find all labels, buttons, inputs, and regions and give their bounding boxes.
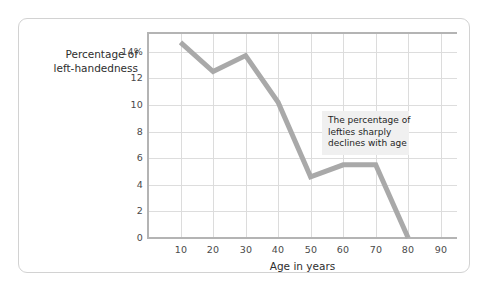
x-tick-label-90: 90 (421, 244, 461, 255)
annotation-line-2: lefties sharply (328, 127, 404, 139)
y-axis-title: Percentage of left-handedness (20, 48, 138, 75)
y-axis-title-line-2: left-handedness (20, 62, 138, 76)
x-axis-tick-labels: 102030405060708090 (0, 0, 491, 291)
chart-annotation: The percentage of lefties sharply declin… (322, 111, 409, 155)
annotation-line-1: The percentage of (328, 115, 404, 127)
chart-figure: 14%121086420 102030405060708090 Percenta… (0, 0, 491, 291)
annotation-line-3: declines with age (328, 138, 404, 150)
y-axis-title-line-1: Percentage of (20, 48, 138, 62)
x-axis-title: Age in years (148, 260, 457, 272)
